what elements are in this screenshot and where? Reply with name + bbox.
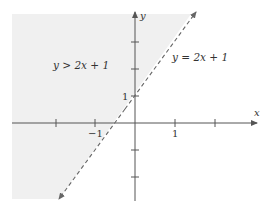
y-axis-label: y [139, 10, 146, 21]
inequality-label: y > 2x + 1 [52, 59, 109, 71]
x-axis-label: x [254, 107, 260, 118]
inequality-graph: y > 2x + 1 y = 2x + 1 y x −1 1 1 [0, 0, 273, 209]
y-tick-label-1: 1 [122, 91, 128, 102]
shaded-region [12, 14, 191, 199]
x-tick-label-neg1: −1 [88, 128, 103, 139]
x-tick-label-1: 1 [172, 128, 178, 139]
boundary-equation-label: y = 2x + 1 [171, 51, 228, 63]
